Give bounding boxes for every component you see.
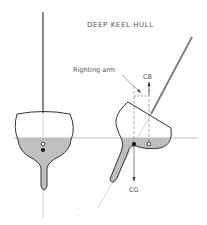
submerged-area bbox=[18, 138, 71, 190]
cb-label: CB bbox=[143, 73, 152, 81]
submerged-area bbox=[110, 138, 170, 182]
cb-point bbox=[147, 142, 151, 146]
righting-arm-label: Righting arm bbox=[73, 66, 115, 74]
heeled-hull bbox=[98, 37, 192, 208]
deep-keel-diagram: DEEP KEEL HULL bbox=[0, 0, 207, 225]
gravity-arrow-icon bbox=[133, 177, 136, 182]
righting-arm-leader bbox=[122, 75, 140, 92]
diagram-title: DEEP KEEL HULL bbox=[87, 21, 154, 29]
speck bbox=[78, 209, 79, 210]
cg-label: CG bbox=[129, 186, 139, 194]
upright-hull bbox=[15, 12, 73, 218]
buoyancy-arrow-icon bbox=[148, 81, 151, 86]
cg-point bbox=[132, 142, 136, 146]
cg-point bbox=[41, 148, 45, 152]
cb-point bbox=[41, 142, 45, 146]
